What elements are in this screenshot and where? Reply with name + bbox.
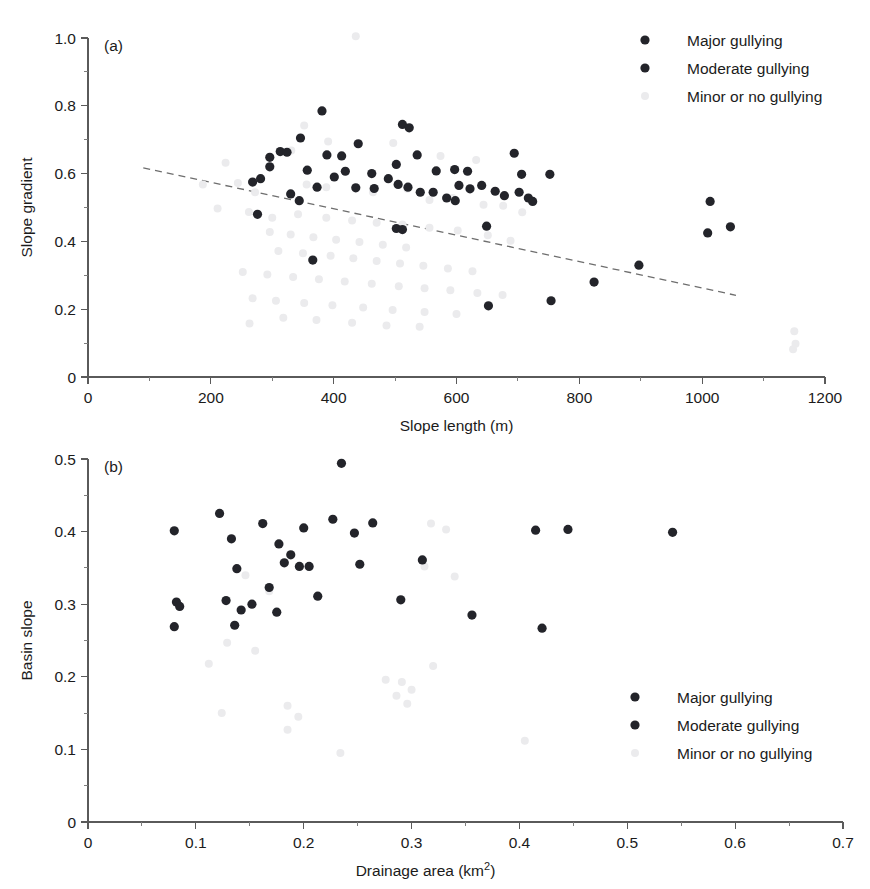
data-point-minor — [451, 573, 459, 581]
data-point-minor — [379, 241, 387, 249]
data-point-major — [546, 296, 555, 305]
data-point-minor — [348, 319, 356, 327]
data-point-major — [341, 167, 350, 176]
data-point-minor — [389, 139, 397, 147]
data-point-minor — [287, 231, 295, 239]
data-point-minor — [268, 214, 276, 222]
scatter-figure: 00.20.40.60.81.0020040060080010001200Slo… — [0, 0, 870, 889]
legend-label-minor: Minor or no gullying — [677, 745, 812, 762]
data-point-major — [413, 150, 422, 159]
data-point-minor — [499, 291, 507, 299]
data-point-major — [265, 583, 274, 592]
panel-a-yticklabel: 0 — [67, 369, 76, 386]
data-point-major — [355, 560, 364, 569]
data-point-minor — [395, 282, 403, 290]
data-point-minor — [398, 678, 406, 686]
panel-b-yticklabel: 0 — [67, 814, 76, 831]
data-point-major — [510, 149, 519, 158]
data-point-minor — [341, 277, 349, 285]
panel-a-yticklabel: 1.0 — [54, 30, 76, 47]
data-point-major — [256, 174, 265, 183]
data-point-minor — [437, 152, 445, 160]
legend-marker-major — [640, 35, 649, 44]
data-point-major — [350, 528, 359, 537]
panel-a-label: (a) — [104, 37, 123, 54]
data-point-major — [313, 592, 322, 601]
data-point-minor — [332, 236, 340, 244]
data-point-minor — [272, 297, 280, 305]
legend-label-major: Major gullying — [687, 32, 783, 49]
data-point-minor — [468, 267, 476, 275]
data-point-minor — [223, 639, 231, 647]
data-point-major — [589, 277, 598, 286]
data-point-major — [450, 165, 459, 174]
data-point-minor — [402, 244, 410, 252]
data-point-major — [337, 459, 346, 468]
data-point-minor — [396, 259, 404, 267]
data-point-minor — [368, 280, 376, 288]
data-point-minor — [239, 268, 247, 276]
data-point-minor — [382, 676, 390, 684]
data-point-major — [517, 170, 526, 179]
panel-a: 00.20.40.60.81.0020040060080010001200Slo… — [18, 30, 843, 435]
legend-marker-minor — [641, 92, 649, 100]
data-point-minor — [419, 262, 427, 270]
panel-b-yticklabel: 0.4 — [54, 523, 76, 540]
data-point-minor — [251, 647, 259, 655]
data-point-minor — [328, 301, 336, 309]
data-point-minor — [234, 179, 242, 187]
legend-marker-major — [630, 692, 639, 701]
data-point-minor — [222, 159, 230, 167]
data-point-minor — [322, 214, 330, 222]
data-point-minor — [327, 252, 335, 260]
data-point-major — [394, 180, 403, 189]
data-point-major — [368, 518, 377, 527]
data-point-major — [312, 183, 321, 192]
data-point-minor — [446, 286, 454, 294]
data-point-major — [706, 197, 715, 206]
panel-a-xticklabel: 400 — [321, 389, 347, 406]
panel-a-yaxis-title: Slope gradient — [18, 157, 35, 258]
data-point-major — [531, 526, 540, 535]
data-point-minor — [392, 692, 400, 700]
data-point-major — [330, 172, 339, 181]
data-point-major — [322, 150, 331, 159]
data-point-major — [454, 181, 463, 190]
data-point-major — [384, 174, 393, 183]
data-point-minor — [312, 316, 320, 324]
panel-b-axes — [88, 459, 843, 822]
data-point-major — [416, 188, 425, 197]
data-point-minor — [303, 180, 311, 188]
data-point-major — [528, 197, 537, 206]
data-point-major — [265, 153, 274, 162]
data-point-minor — [425, 196, 433, 204]
data-point-major — [396, 595, 405, 604]
data-point-minor — [389, 306, 397, 314]
data-point-minor — [199, 180, 207, 188]
data-point-minor — [289, 273, 297, 281]
data-point-major — [442, 193, 451, 202]
data-point-major — [429, 188, 438, 197]
data-point-major — [272, 608, 281, 617]
data-point-major — [248, 177, 257, 186]
data-point-minor — [322, 183, 330, 191]
data-point-major — [295, 196, 304, 205]
data-point-major — [305, 562, 314, 571]
data-point-major — [477, 181, 486, 190]
panel-a-xaxis-title: Slope length (m) — [400, 417, 514, 434]
data-point-minor — [359, 304, 367, 312]
panel-b-yticklabel: 0.1 — [54, 741, 76, 758]
data-point-major — [286, 550, 295, 559]
data-point-major — [280, 558, 289, 567]
data-point-major — [296, 133, 305, 142]
data-point-minor — [352, 32, 360, 40]
data-point-minor — [294, 713, 302, 721]
legend-label-major: Major gullying — [677, 689, 773, 706]
data-point-minor — [416, 323, 424, 331]
data-point-major — [282, 148, 291, 157]
data-point-minor — [284, 726, 292, 734]
data-point-minor — [789, 345, 797, 353]
panel-b-xticklabel: 0.5 — [617, 834, 639, 851]
data-point-major — [500, 191, 509, 200]
panel-b-xticklabel: 0.2 — [293, 834, 315, 851]
